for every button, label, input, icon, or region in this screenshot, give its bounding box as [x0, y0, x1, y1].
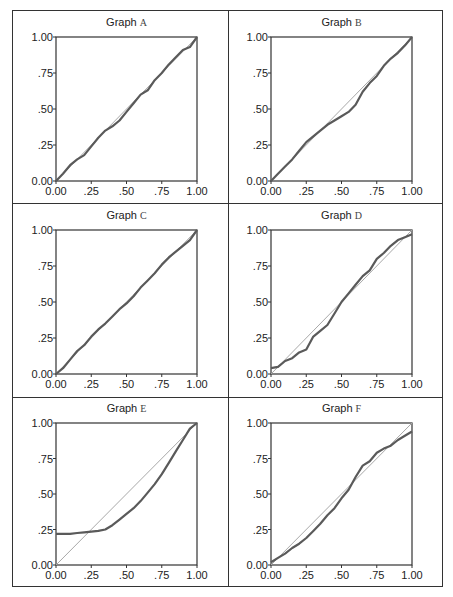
y-tick-label: 0.00 [247, 368, 268, 380]
x-tick-label: 1.00 [401, 185, 422, 197]
plot-area: 0.000.00.25.25.50.50.75.751.001.00 [223, 222, 424, 396]
plot-area: 0.000.00.25.25.50.50.75.751.001.00 [8, 29, 209, 203]
y-tick-label: .25 [38, 332, 53, 344]
y-tick-label: .75 [253, 67, 268, 79]
x-tick-label: .50 [119, 569, 134, 581]
y-tick-label: .50 [253, 296, 268, 308]
graph-title: GraphB [242, 16, 442, 28]
y-tick-label: .75 [38, 67, 53, 79]
x-tick-label: .25 [299, 378, 314, 390]
x-tick-label: .75 [154, 569, 169, 581]
x-tick-label: .50 [334, 185, 349, 197]
x-tick-label: .25 [299, 569, 314, 581]
graph-title-prefix: Graph [322, 402, 353, 414]
y-tick-label: 1.00 [247, 224, 268, 236]
plot-area: 0.000.00.25.25.50.50.75.751.001.00 [223, 29, 424, 203]
y-tick-label: .50 [38, 488, 53, 500]
x-tick-label: .75 [154, 185, 169, 197]
graph-title: GraphF [242, 402, 442, 414]
y-tick-label: .25 [253, 332, 268, 344]
graph-title-prefix: Graph [106, 16, 137, 28]
y-tick-label: .25 [253, 524, 268, 536]
x-tick-label: .25 [84, 378, 99, 390]
x-tick-label: 1.00 [186, 378, 207, 390]
graph-title-letter: E [140, 403, 146, 414]
x-tick-label: .50 [119, 378, 134, 390]
x-tick-label: .50 [119, 185, 134, 197]
plot-area: 0.000.00.25.25.50.50.75.751.001.00 [8, 415, 209, 587]
y-tick-label: .75 [38, 260, 53, 272]
graph-title: GraphE [27, 402, 227, 414]
y-tick-label: 1.00 [32, 224, 53, 236]
graph-title: GraphD [242, 209, 442, 221]
y-tick-label: .25 [38, 139, 53, 151]
x-tick-label: 1.00 [186, 569, 207, 581]
y-tick-label: .75 [253, 260, 268, 272]
x-tick-label: .25 [84, 185, 99, 197]
y-tick-label: .25 [253, 139, 268, 151]
graph-title-prefix: Graph [106, 209, 137, 221]
y-tick-label: .50 [38, 103, 53, 115]
row-divider-2 [12, 397, 443, 398]
x-tick-label: 1.00 [401, 569, 422, 581]
x-tick-label: .25 [299, 185, 314, 197]
graph-title-prefix: Graph [107, 402, 138, 414]
x-tick-label: .75 [154, 378, 169, 390]
graph-title-letter: D [355, 210, 362, 221]
y-tick-label: 0.00 [32, 175, 53, 187]
y-tick-label: .50 [38, 296, 53, 308]
y-tick-label: 1.00 [247, 417, 268, 429]
y-tick-label: .50 [253, 103, 268, 115]
y-tick-label: .75 [253, 453, 268, 465]
y-tick-label: .75 [38, 453, 53, 465]
y-tick-label: 0.00 [32, 368, 53, 380]
x-tick-label: 1.00 [186, 185, 207, 197]
x-tick-label: .50 [334, 378, 349, 390]
x-tick-label: .25 [84, 569, 99, 581]
y-tick-label: 0.00 [32, 559, 53, 571]
y-tick-label: 0.00 [247, 559, 268, 571]
x-tick-label: .75 [369, 569, 384, 581]
graph-title-prefix: Graph [321, 16, 352, 28]
y-tick-label: 1.00 [32, 31, 53, 43]
graph-title: GraphC [27, 209, 227, 221]
x-tick-label: .75 [369, 378, 384, 390]
y-tick-label: 1.00 [247, 31, 268, 43]
y-tick-label: .50 [253, 488, 268, 500]
graph-title-letter: A [140, 17, 147, 28]
x-tick-label: 1.00 [401, 378, 422, 390]
graph-title-prefix: Graph [321, 209, 352, 221]
y-tick-label: 0.00 [247, 175, 268, 187]
y-tick-label: 1.00 [32, 417, 53, 429]
graph-title-letter: C [140, 210, 147, 221]
x-tick-label: .50 [334, 569, 349, 581]
plot-area: 0.000.00.25.25.50.50.75.751.001.00 [8, 222, 209, 396]
x-tick-label: .75 [369, 185, 384, 197]
graph-title-letter: F [356, 403, 362, 414]
graph-title-letter: B [355, 17, 362, 28]
row-divider-1 [12, 203, 443, 204]
plot-area: 0.000.00.25.25.50.50.75.751.001.00 [223, 415, 424, 587]
y-tick-label: .25 [38, 524, 53, 536]
graph-title: GraphA [27, 16, 227, 28]
